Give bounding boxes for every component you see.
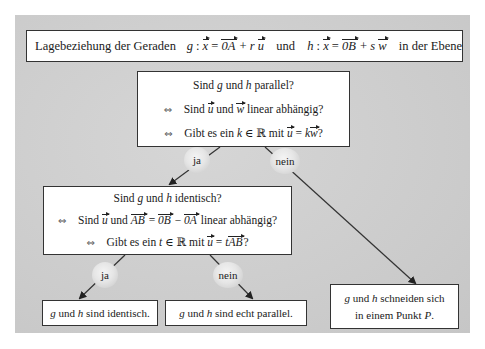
result-parallel-box: g und h sind echt parallel. [165,300,307,326]
equivalence-icon: ⇔ [58,215,78,226]
title-suffix: in der Ebene [399,39,462,54]
title-r: r [250,39,255,54]
title-eq: = [211,39,218,54]
title-s: s [370,39,375,54]
branch-label-yes-top: ja [184,147,210,173]
title-prefix: Lagebeziehung der Geraden [35,39,176,54]
branch-label-yes-middle: ja [92,262,118,288]
question-identical-line2: ⇔Sind u und AB = 0B − 0A linear abhängig… [44,214,291,226]
title-colon: : [196,39,199,54]
title-plus-2: + [360,39,367,54]
equivalence-icon: ⇔ [86,237,106,248]
question-identical-line1: Sind g und h identisch? [44,192,291,204]
title-g: g [187,39,193,54]
question-parallel-line2: ⇔Sind u und w linear abhängig? [138,103,349,115]
result-intersect-box: g und h schneiden sich in einem Punkt P. [330,284,459,329]
title-h: h [307,39,313,54]
title-eq-2: = [332,39,339,54]
question-parallel-box: Sind g und h parallel? ⇔Sind u und w lin… [137,71,350,147]
title-vec-u: u [258,39,264,54]
question-parallel-line3: ⇔Gibt es ein k ∈ ℝ mit u = kw? [138,126,349,140]
title-vec-w: w [378,39,386,54]
result-identical-box: g und h sind identisch. [42,300,158,326]
title-vec-x: x [203,39,209,54]
question-identical-line3: ⇔Gibt es ein t ∈ ℝ mit u = tAB? [44,235,291,249]
branch-label-no-top: nein [270,148,300,174]
title-colon-2: : [317,39,320,54]
equivalence-icon: ⇔ [164,128,184,139]
question-parallel-line1: Sind g und h parallel? [138,79,349,91]
title-vec-OB: 0B [342,39,357,54]
title-und: und [276,39,295,54]
title-vec-OA: 0A [221,39,236,54]
title-box: Lagebeziehung der Geraden g : x = 0A + r… [26,30,463,62]
question-identical-box: Sind g und h identisch? ⇔Sind u und AB =… [43,186,292,255]
equivalence-icon: ⇔ [164,104,184,115]
title-vec-x-2: x [323,39,329,54]
branch-label-no-middle: nein [213,262,243,288]
title-plus: + [240,39,247,54]
